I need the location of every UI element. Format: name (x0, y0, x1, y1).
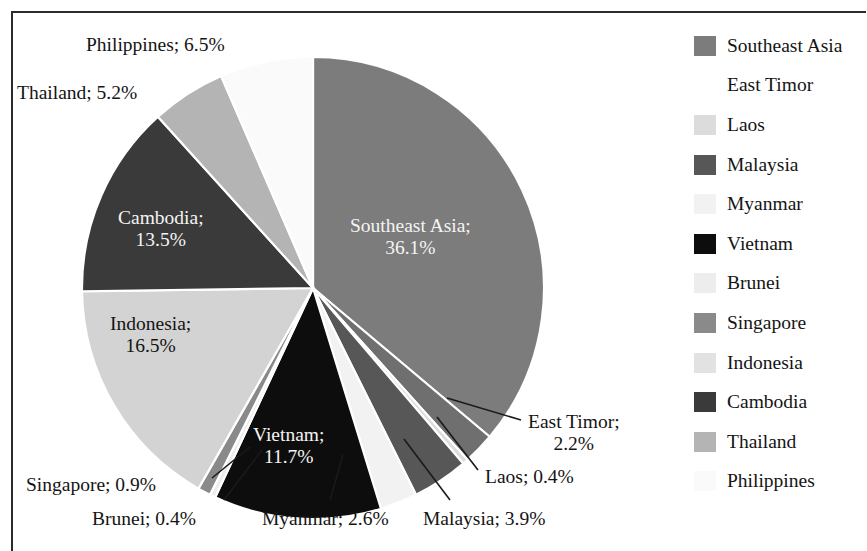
legend-item-malaysia[interactable]: Malaysia (694, 145, 867, 185)
legend-swatch-icon (694, 313, 716, 333)
legend-swatch-icon (694, 36, 716, 56)
legend-swatch-icon (694, 115, 716, 135)
legend-label: Southeast Asia (727, 35, 842, 57)
legend-label: Philippines (727, 470, 815, 492)
slice-label-malaysia: Malaysia; 3.9% (423, 508, 545, 530)
legend-item-laos[interactable]: Laos (694, 105, 867, 145)
legend-label: Cambodia (727, 391, 807, 413)
legend-item-vietnam[interactable]: Vietnam (694, 224, 867, 264)
legend-swatch-icon (694, 234, 716, 254)
slice-label-singapore: Singapore; 0.9% (26, 474, 156, 496)
legend-label: Laos (727, 114, 765, 136)
legend-item-singapore[interactable]: Singapore (694, 303, 867, 343)
legend-item-indonesia[interactable]: Indonesia (694, 343, 867, 383)
legend-label: Malaysia (727, 154, 798, 176)
legend-label: Singapore (727, 312, 806, 334)
legend-swatch-icon (694, 273, 716, 293)
legend-label: East Timor (727, 74, 813, 96)
legend-label: Indonesia (727, 352, 803, 374)
legend-swatch-icon (694, 471, 716, 491)
legend-swatch-icon (694, 75, 716, 95)
slice-label-southeast-asia: Southeast Asia; 36.1% (350, 215, 471, 259)
legend-item-thailand[interactable]: Thailand (694, 422, 867, 462)
slice-label-philippines: Philippines; 6.5% (86, 34, 225, 56)
legend-item-east-timor[interactable]: East Timor (694, 66, 867, 106)
legend-label: Thailand (727, 431, 796, 453)
slice-label-brunei: Brunei; 0.4% (92, 508, 196, 530)
legend-swatch-icon (694, 353, 716, 373)
legend-item-philippines[interactable]: Philippines (694, 462, 867, 502)
pie-chart-figure: Philippines; 6.5%Thailand; 5.2%East Timo… (0, 0, 867, 551)
legend-item-myanmar[interactable]: Myanmar (694, 184, 867, 224)
slice-label-cambodia: Cambodia; 13.5% (118, 207, 204, 251)
slice-label-vietnam: Vietnam; 11.7% (253, 424, 324, 468)
legend-item-cambodia[interactable]: Cambodia (694, 382, 867, 422)
legend-swatch-icon (694, 392, 716, 412)
legend-swatch-icon (694, 155, 716, 175)
legend-swatch-icon (694, 432, 716, 452)
chart-legend: Southeast AsiaEast TimorLaosMalaysiaMyan… (694, 26, 867, 501)
slice-label-myanmar: Myanmar; 2.6% (262, 508, 389, 530)
legend-item-brunei[interactable]: Brunei (694, 264, 867, 304)
slice-label-east-timor: East Timor; 2.2% (528, 411, 620, 455)
slice-label-laos: Laos; 0.4% (485, 466, 574, 488)
slice-label-indonesia: Indonesia; 16.5% (110, 313, 191, 357)
legend-label: Vietnam (727, 233, 793, 255)
legend-label: Brunei (727, 272, 780, 294)
slice-label-thailand: Thailand; 5.2% (17, 82, 137, 104)
legend-item-southeast-asia[interactable]: Southeast Asia (694, 26, 867, 66)
legend-swatch-icon (694, 194, 716, 214)
legend-label: Myanmar (727, 193, 803, 215)
